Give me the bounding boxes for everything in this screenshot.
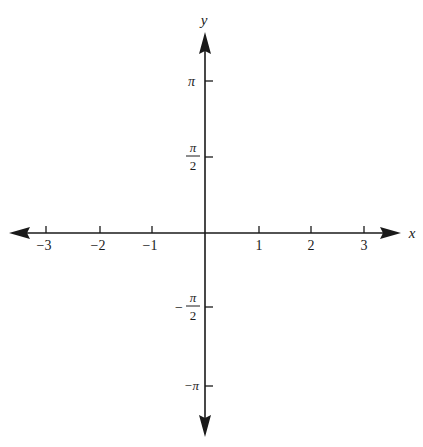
x-axis-left-arrow-icon	[9, 227, 30, 239]
x-axis-label: x	[408, 225, 416, 241]
y-tick-label-pi-half: π 2	[186, 140, 200, 173]
fraction-denominator: 2	[190, 308, 197, 323]
x-tick-label: −2	[91, 238, 106, 253]
y-axis-down-arrow-icon	[199, 415, 211, 437]
fraction-denominator: 2	[190, 158, 197, 173]
y-axis-label: y	[199, 12, 208, 28]
fraction-sign: −	[175, 300, 183, 315]
x-tick-label: −1	[143, 238, 158, 253]
fraction-numerator: π	[190, 140, 197, 155]
x-tick-label: 1	[256, 238, 263, 253]
x-tick-label: 2	[308, 238, 315, 253]
x-tick-label: 3	[361, 238, 368, 253]
y-axis-up-arrow-icon	[199, 32, 211, 54]
x-tick-labels: −3 −2 −1 1 2 3	[37, 238, 368, 253]
axes-canvas: y x −3 −2 −1 1 2 3 π π 2 − π	[0, 0, 423, 447]
y-tick-label-neg-pi: −π	[184, 378, 200, 393]
x-tick-label: −3	[37, 238, 52, 253]
y-tick-label-neg-pi-half: − π 2	[175, 290, 200, 323]
y-tick-label-pi: π	[188, 74, 196, 89]
x-axis-right-arrow-icon	[380, 227, 401, 239]
fraction-numerator: π	[190, 290, 197, 305]
coordinate-axes-diagram: y x −3 −2 −1 1 2 3 π π 2 − π	[0, 0, 423, 447]
